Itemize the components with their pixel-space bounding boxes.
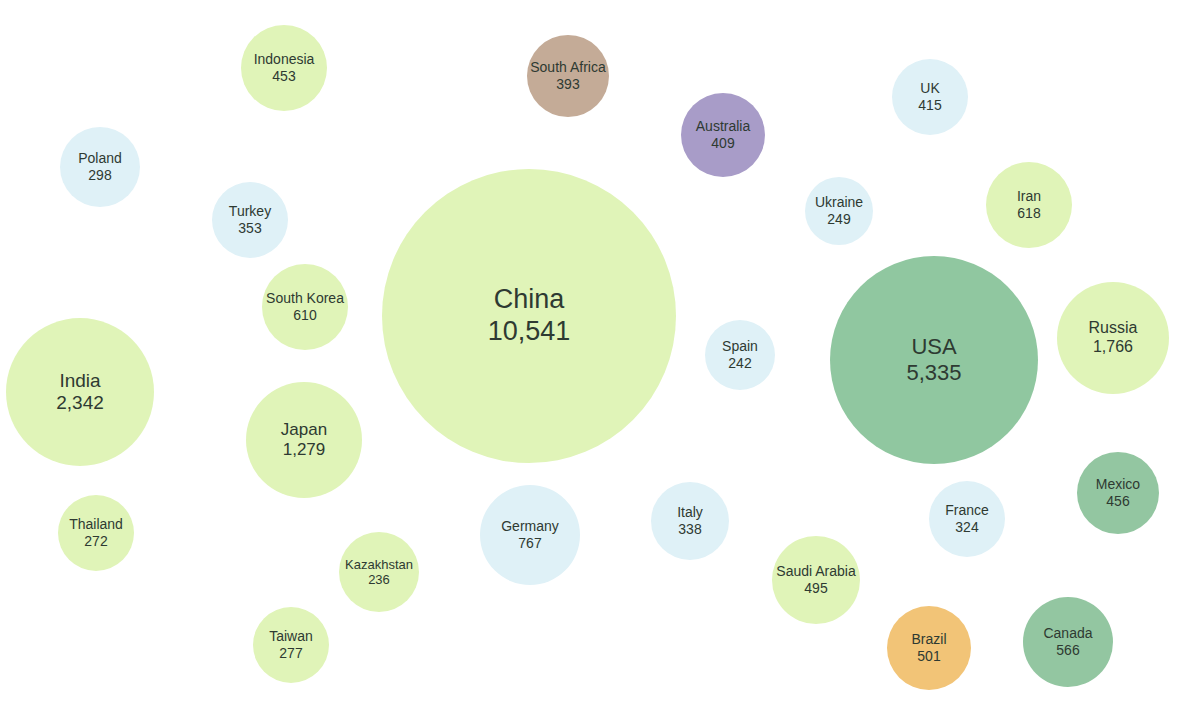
bubble-usa[interactable]: USA5,335 <box>830 256 1038 464</box>
bubble-label: UK <box>920 80 939 97</box>
bubble-germany[interactable]: Germany767 <box>480 485 580 585</box>
bubble-value: 277 <box>279 645 302 662</box>
bubble-label: Spain <box>722 338 758 355</box>
bubble-label: Kazakhstan <box>345 557 413 572</box>
bubble-label: India <box>59 370 100 392</box>
bubble-canada[interactable]: Canada566 <box>1023 597 1113 687</box>
bubble-value: 409 <box>711 135 734 152</box>
bubble-label: Thailand <box>69 516 123 533</box>
bubble-value: 2,342 <box>56 392 104 414</box>
bubble-iran[interactable]: Iran618 <box>986 162 1072 248</box>
bubble-value: 249 <box>827 211 850 228</box>
bubble-label: USA <box>911 334 956 360</box>
bubble-value: 5,335 <box>906 360 961 386</box>
bubble-value: 453 <box>272 68 295 85</box>
bubble-saudi-arabia[interactable]: Saudi Arabia495 <box>772 536 860 624</box>
bubble-label: Japan <box>281 420 327 440</box>
bubble-value: 618 <box>1017 205 1040 222</box>
bubble-label: Ukraine <box>815 194 863 211</box>
bubble-label: Iran <box>1017 188 1041 205</box>
bubble-france[interactable]: France324 <box>929 481 1005 557</box>
bubble-value: 495 <box>804 580 827 597</box>
bubble-label: Australia <box>696 118 750 135</box>
bubble-russia[interactable]: Russia1,766 <box>1057 282 1169 394</box>
bubble-value: 10,541 <box>488 316 571 348</box>
bubble-label: Indonesia <box>254 51 315 68</box>
bubble-value: 338 <box>678 521 701 538</box>
bubble-label: South Africa <box>530 59 606 76</box>
bubble-value: 236 <box>368 572 390 587</box>
bubble-china[interactable]: China10,541 <box>382 169 676 463</box>
bubble-italy[interactable]: Italy338 <box>651 482 729 560</box>
bubble-uk[interactable]: UK415 <box>892 59 968 135</box>
bubble-value: 767 <box>518 535 541 552</box>
bubble-value: 1,279 <box>283 440 326 460</box>
bubble-australia[interactable]: Australia409 <box>681 93 765 177</box>
bubble-label: Mexico <box>1096 476 1140 493</box>
bubble-label: Poland <box>78 150 122 167</box>
bubble-india[interactable]: India2,342 <box>6 318 154 466</box>
bubble-label: Brazil <box>911 631 946 648</box>
bubble-kazakhstan[interactable]: Kazakhstan236 <box>339 532 419 612</box>
bubble-value: 393 <box>556 76 579 93</box>
bubble-value: 501 <box>917 648 940 665</box>
bubble-value: 456 <box>1106 493 1129 510</box>
bubble-value: 566 <box>1056 642 1079 659</box>
bubble-label: Turkey <box>229 203 271 220</box>
bubble-south-korea[interactable]: South Korea610 <box>262 264 348 350</box>
bubble-poland[interactable]: Poland298 <box>60 127 140 207</box>
bubble-label: Canada <box>1043 625 1092 642</box>
bubble-turkey[interactable]: Turkey353 <box>212 182 288 258</box>
bubble-chart-canvas: China10,541USA5,335India2,342Russia1,766… <box>0 0 1188 710</box>
bubble-value: 272 <box>84 533 107 550</box>
bubble-japan[interactable]: Japan1,279 <box>246 382 362 498</box>
bubble-brazil[interactable]: Brazil501 <box>887 606 971 690</box>
bubble-value: 1,766 <box>1093 338 1133 357</box>
bubble-thailand[interactable]: Thailand272 <box>58 495 134 571</box>
bubble-label: France <box>945 502 989 519</box>
bubble-value: 353 <box>238 220 261 237</box>
bubble-label: Russia <box>1089 319 1138 338</box>
bubble-value: 610 <box>293 307 316 324</box>
bubble-south-africa[interactable]: South Africa393 <box>527 35 609 117</box>
bubble-label: Saudi Arabia <box>776 563 855 580</box>
bubble-spain[interactable]: Spain242 <box>705 320 775 390</box>
bubble-taiwan[interactable]: Taiwan277 <box>253 607 329 683</box>
bubble-label: China <box>494 284 565 316</box>
bubble-label: South Korea <box>266 290 344 307</box>
bubble-value: 324 <box>955 519 978 536</box>
bubble-mexico[interactable]: Mexico456 <box>1077 452 1159 534</box>
bubble-value: 242 <box>728 355 751 372</box>
bubble-label: Taiwan <box>269 628 313 645</box>
bubble-ukraine[interactable]: Ukraine249 <box>805 177 873 245</box>
bubble-label: Germany <box>501 518 559 535</box>
bubble-label: Italy <box>677 504 703 521</box>
bubble-value: 415 <box>918 97 941 114</box>
bubble-value: 298 <box>88 167 111 184</box>
bubble-indonesia[interactable]: Indonesia453 <box>241 25 327 111</box>
